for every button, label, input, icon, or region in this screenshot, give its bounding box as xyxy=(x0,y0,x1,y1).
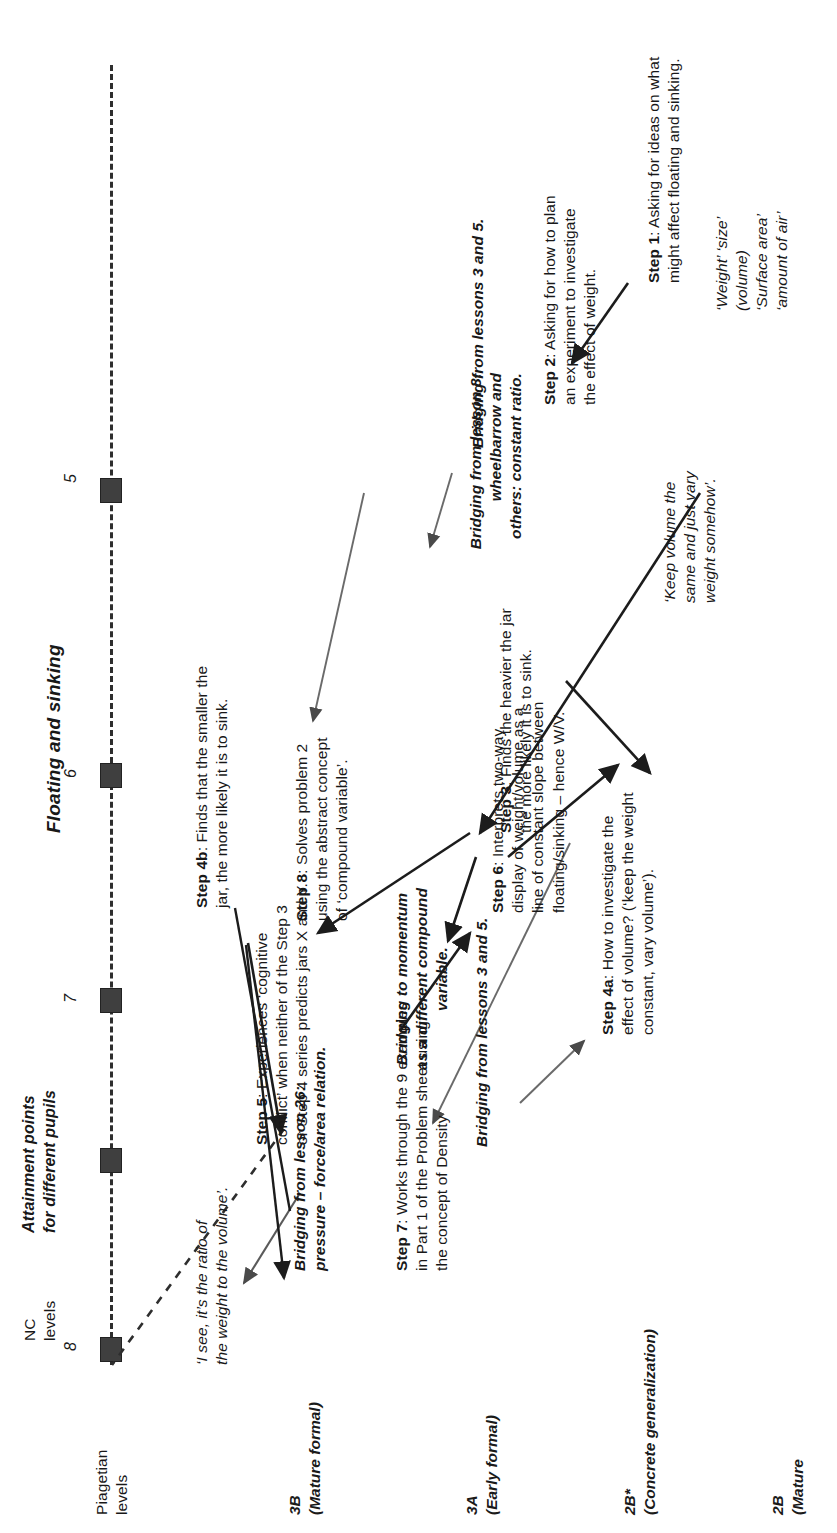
tick-label-8: 8 xyxy=(62,1342,80,1351)
quote-ratio: ‘I see, it’s the ratio of the weight to … xyxy=(192,1115,232,1365)
level-2b-star-code: 2B* xyxy=(621,1489,638,1515)
tick-label-5: 5 xyxy=(62,474,80,483)
page-title: Floating and sinking xyxy=(42,644,67,833)
level-2b-star: 2B* (Concrete generalization) xyxy=(620,1329,660,1515)
level-3b-desc: (Mature formal) xyxy=(305,1402,325,1515)
step2-block: Step 2: Asking for how to plan an experi… xyxy=(520,105,601,405)
quote-keep-volume: ‘Keep volume the same and just vary weig… xyxy=(660,325,720,603)
step7-block: Step 7: Works through the 9 examples in … xyxy=(372,899,453,1271)
level-3a-code: 3A xyxy=(463,1495,480,1515)
piagetian-levels-heading: Piagetian levels xyxy=(92,1449,133,1515)
level-2b-desc: (Mature xyxy=(788,1459,808,1515)
arrow-step2-to-keep-volume xyxy=(430,473,452,547)
diagram-canvas: Floating and sinking NC levels Attainmen… xyxy=(0,0,837,1533)
level-3b-code: 3B xyxy=(286,1495,303,1515)
step4a-label: Step 4a xyxy=(599,979,616,1035)
step3-label: Step 3 xyxy=(497,786,514,833)
nc-levels-label: NC levels xyxy=(20,1301,61,1341)
level-2b: 2B (Mature xyxy=(768,1459,808,1515)
bridging-lessons35-upper-label: Bridging from lessons 3 and 5. xyxy=(472,817,492,1147)
level-3b: 3B (Mature formal) xyxy=(285,1402,325,1515)
tick-label-7: 7 xyxy=(62,994,80,1003)
attainment-marker xyxy=(100,478,122,503)
step1-block: Step 1: Asking for ideas on what might a… xyxy=(624,0,684,283)
level-3a: 3A (Early formal) xyxy=(462,1415,502,1515)
level-3a-desc: (Early formal) xyxy=(482,1415,502,1515)
step4b-block: Step 4b: Finds that the smaller the jar,… xyxy=(172,560,232,908)
step7-label: Step 7 xyxy=(393,1224,410,1271)
tick-label-6: 6 xyxy=(62,769,80,778)
step1-label: Step 1 xyxy=(645,236,662,283)
attainment-marker xyxy=(100,988,122,1013)
step5-block: Step 5: Experiences ‘cognitive conflict’… xyxy=(232,747,313,1145)
attainment-marker xyxy=(100,1337,122,1362)
rotated-diagram-canvas: Floating and sinking NC levels Attainmen… xyxy=(0,0,837,1533)
step5-label: Step 5 xyxy=(253,1098,270,1145)
attainment-marker xyxy=(100,763,122,788)
quote-ideas-list: ‘Weight’ ‘size’ (volume) ‘Surface area’ … xyxy=(712,61,793,311)
level-2b-code: 2B xyxy=(769,1495,786,1515)
step4b-label: Step 4b xyxy=(193,851,210,908)
arrow-bridging35-to-step4a xyxy=(520,1041,584,1103)
level-2b-star-desc: (Concrete generalization) xyxy=(640,1329,660,1515)
attainment-marker xyxy=(100,1148,122,1173)
step4a-block: Step 4a: How to investigate the effect o… xyxy=(578,705,659,1035)
attainment-points-label: Attainment points for different pupils xyxy=(18,1090,61,1233)
step2-label: Step 2 xyxy=(541,358,558,405)
bridging-lessons35-lower-label: Bridging from lessons 3 and 5. xyxy=(468,138,488,448)
